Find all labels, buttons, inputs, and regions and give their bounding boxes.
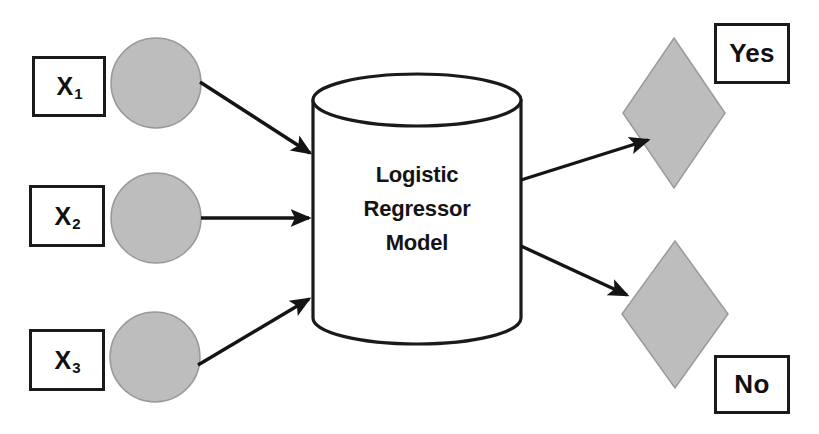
arrow-model-to-yes bbox=[521, 140, 648, 180]
input-node-3[interactable] bbox=[110, 312, 200, 402]
input-label-1: X1 bbox=[56, 72, 81, 101]
model-label-line-2: Regressor bbox=[322, 192, 512, 226]
diagram-canvas: X1 X2 X3 Logistic Regressor Model Yes No bbox=[0, 0, 819, 434]
outcome-label-box-no[interactable]: No bbox=[714, 355, 790, 414]
arrow-input-3-to-model bbox=[198, 299, 309, 365]
outcome-label-yes: Yes bbox=[729, 38, 775, 69]
arrow-model-to-no bbox=[521, 246, 627, 295]
outcome-label-box-yes[interactable]: Yes bbox=[714, 23, 790, 84]
model-label-line-1: Logistic bbox=[322, 158, 512, 192]
input-node-2[interactable] bbox=[111, 173, 201, 263]
input-label-2: X2 bbox=[54, 202, 79, 231]
outcome-label-no: No bbox=[734, 369, 769, 400]
outcome-node-no[interactable] bbox=[622, 241, 728, 388]
input-node-1[interactable] bbox=[111, 38, 201, 128]
input-label-box-1[interactable]: X1 bbox=[32, 56, 106, 117]
model-label-line-3: Model bbox=[322, 226, 512, 260]
model-label: Logistic Regressor Model bbox=[322, 158, 512, 260]
input-label-box-2[interactable]: X2 bbox=[29, 185, 105, 247]
input-label-box-3[interactable]: X3 bbox=[29, 329, 105, 391]
input-label-3: X3 bbox=[54, 346, 79, 375]
outcome-node-yes[interactable] bbox=[623, 38, 725, 188]
arrow-input-1-to-model bbox=[200, 82, 310, 153]
